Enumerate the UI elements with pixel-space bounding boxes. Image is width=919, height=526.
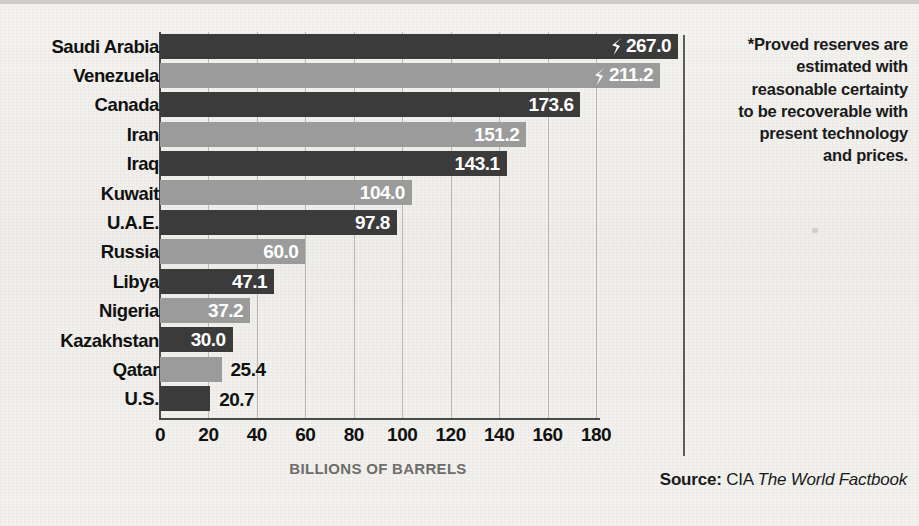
bar-row: Nigeria37.2 (0, 297, 690, 326)
x-tick-100: 100 (387, 424, 417, 446)
footnote-line: reasonable certainty (700, 78, 908, 100)
category-label: Venezuela (73, 65, 159, 87)
bar-nigeria: 37.2 (160, 298, 250, 323)
oil-reserves-bar-chart: Saudi Arabia267.0Venezuela211.2Canada173… (0, 26, 690, 466)
bar-canada: 173.6 (160, 92, 580, 117)
bar-track: 60.0 (160, 239, 596, 264)
category-label: U.S. (125, 388, 159, 410)
bar-track: 25.4 (160, 357, 596, 382)
bar-row: Iraq143.1 (0, 150, 690, 179)
bar-track: 97.8 (160, 210, 596, 235)
source-agency: CIA (726, 470, 753, 489)
bar-value-label: 104.0 (360, 183, 412, 202)
bar-row: Venezuela211.2 (0, 61, 690, 90)
x-tick-60: 60 (295, 424, 315, 446)
source-credit: Source: CIA The World Factbook (660, 470, 907, 490)
bar-value-label: 211.2 (594, 65, 660, 85)
bar-iran: 151.2 (160, 122, 526, 147)
bar-row: Iran151.2 (0, 120, 690, 149)
bar-row: U.A.E.97.8 (0, 208, 690, 237)
bar-venezuela: 211.2 (160, 63, 660, 88)
footnote-line: and prices. (700, 144, 908, 166)
bar-value-label: 97.8 (355, 213, 397, 232)
x-axis-title: BILLIONS OF BARRELS (160, 460, 596, 477)
bar-saudi-arabia: 267.0 (160, 34, 678, 59)
bar-track: 267.0 (160, 34, 596, 59)
bar-kuwait: 104.0 (160, 180, 412, 205)
scan-speck (812, 228, 818, 233)
bar-iraq: 143.1 (160, 151, 507, 176)
bar-track: 151.2 (160, 122, 596, 147)
bar-track: 173.6 (160, 92, 596, 117)
bar-qatar (160, 357, 222, 382)
footnote-line: to be recoverable with (700, 100, 908, 122)
bar-value-label: 60.0 (263, 242, 305, 261)
bar-value-label: 25.4 (222, 360, 266, 379)
bar-track: 37.2 (160, 298, 596, 323)
category-label: Kazakhstan (60, 330, 159, 352)
bar-libya: 47.1 (160, 269, 274, 294)
x-tick-180: 180 (581, 424, 611, 446)
bar-track: 211.2 (160, 63, 596, 88)
bar-value-label: 151.2 (474, 125, 526, 144)
bar-value-label: 20.7 (210, 389, 254, 408)
category-label: Iran (127, 124, 159, 146)
footnote-line: present technology (700, 122, 908, 144)
bar-value-label: 47.1 (232, 272, 274, 291)
vertical-divider (683, 35, 685, 456)
category-label: Iraq (127, 153, 159, 175)
x-axis-tick-labels: 020406080100120140160180 (0, 424, 690, 450)
category-label: Kuwait (101, 183, 159, 205)
bar-row: Saudi Arabia267.0 (0, 32, 690, 61)
category-label: Nigeria (99, 300, 159, 322)
bar-track: 104.0 (160, 180, 596, 205)
source-label: Source: (660, 470, 722, 489)
bar-row: U.S.20.7 (0, 385, 690, 414)
category-label: Russia (101, 241, 159, 263)
bar-row: Russia60.0 (0, 238, 690, 267)
x-tick-40: 40 (247, 424, 267, 446)
footnote-line: estimated with (700, 55, 908, 77)
bar-track: 47.1 (160, 269, 596, 294)
bar-russia: 60.0 (160, 239, 305, 264)
footnote-line: *Proved reserves are (700, 33, 908, 55)
bar-value-label: 37.2 (208, 301, 250, 320)
bar-row: Canada173.6 (0, 91, 690, 120)
x-tick-20: 20 (198, 424, 218, 446)
x-tick-140: 140 (484, 424, 514, 446)
bar-u-s (160, 386, 210, 411)
bar-track: 143.1 (160, 151, 596, 176)
bar-u-a-e: 97.8 (160, 210, 397, 235)
bar-row: Kuwait104.0 (0, 179, 690, 208)
bar-rows: Saudi Arabia267.0Venezuela211.2Canada173… (0, 32, 690, 414)
bar-track: 20.7 (160, 386, 596, 411)
bar-value-label: 173.6 (528, 95, 580, 114)
bar-row: Qatar25.4 (0, 355, 690, 384)
category-label: Qatar (113, 359, 159, 381)
category-label: U.A.E. (107, 212, 159, 234)
bar-kazakhstan: 30.0 (160, 327, 233, 352)
bar-row: Libya47.1 (0, 267, 690, 296)
bar-value-label: 143.1 (455, 154, 507, 173)
bar-row: Kazakhstan30.0 (0, 326, 690, 355)
footnote-proved-reserves: *Proved reserves areestimated withreason… (700, 33, 908, 167)
bar-value-label: 267.0 (611, 36, 678, 56)
infographic-root: Saudi Arabia267.0Venezuela211.2Canada173… (0, 0, 919, 526)
x-tick-160: 160 (532, 424, 562, 446)
bar-track: 30.0 (160, 327, 596, 352)
source-publication: The World Factbook (758, 470, 907, 489)
x-tick-120: 120 (436, 424, 466, 446)
bar-value-label: 30.0 (191, 330, 233, 349)
category-label: Saudi Arabia (51, 36, 159, 58)
category-label: Canada (95, 94, 159, 116)
x-tick-0: 0 (155, 424, 165, 446)
category-label: Libya (113, 271, 159, 293)
x-tick-80: 80 (344, 424, 364, 446)
x-axis-line (159, 418, 600, 420)
